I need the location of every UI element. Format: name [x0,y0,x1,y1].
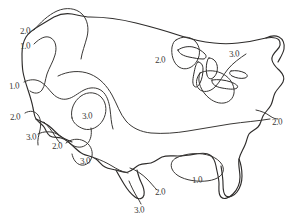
contour-label: 2.0 [52,141,63,151]
lake-michigan [193,62,203,87]
coastline-path [22,14,284,199]
contour-label: 2.0 [155,187,166,197]
contour-line-2-great-lakes [172,37,200,69]
contour-label: 1.0 [192,175,203,185]
contour-line-central-sweep [58,72,270,134]
contour-line-1-pacific [24,80,113,129]
contour-line-1-northwest [30,37,56,93]
contour-label: 3.0 [80,156,91,166]
contour-label: 3.0 [134,205,145,215]
lake-superior [178,47,206,59]
contour-label: 2.0 [155,55,166,65]
contour-label: 2.0 [20,26,31,36]
contour-label: 3.0 [82,111,93,121]
southwest-coast [36,119,72,142]
contour-line-3-appalachian [199,71,234,103]
lake-huron [206,58,217,79]
contour-label: 3.0 [26,132,37,142]
contour-map-figure: 2.0 1.0 1.0 2.0 3.0 2.0 3.0 3.0 2.0 3.0 … [0,0,303,224]
contour-line-southern-border [95,158,128,173]
contour-label: 2.0 [272,117,283,127]
us-outline [22,14,284,199]
contour-label: 1.0 [20,41,31,51]
map-svg [0,0,303,224]
contour-label: 3.0 [229,49,240,59]
contour-label: 1.0 [9,81,20,91]
lake-ontario [230,71,248,79]
contour-label: 2.0 [10,112,21,122]
northeast-coast [266,36,284,62]
